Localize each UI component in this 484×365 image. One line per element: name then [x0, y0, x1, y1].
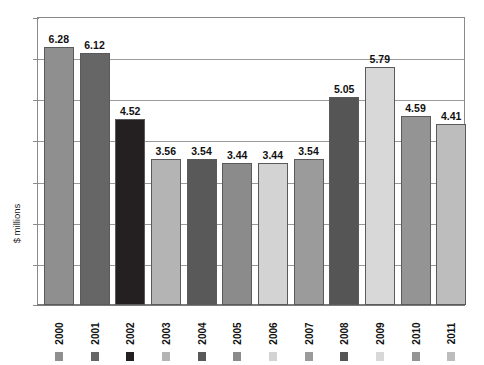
bar-slot: 6.12 [80, 17, 110, 305]
bar-value-label: 5.79 [370, 53, 390, 65]
legend-swatch-2009 [376, 352, 384, 361]
bar[interactable] [258, 163, 288, 305]
bar-chart: $ millions 6.286.124.523.563.543.443.443… [0, 0, 484, 365]
bar-value-label: 4.59 [405, 102, 425, 114]
bar-value-label: 3.56 [156, 145, 176, 157]
category-slot: 2007 [294, 306, 324, 365]
bar[interactable] [365, 67, 395, 305]
bar-value-label: 3.54 [191, 145, 211, 157]
legend-swatch-2008 [340, 352, 348, 361]
x-axis-label-2002: 2002 [125, 322, 136, 344]
bar-value-label: 5.05 [334, 83, 354, 95]
bar[interactable] [294, 159, 324, 305]
category-slot: 2002 [115, 306, 145, 365]
bar-slot: 5.05 [329, 17, 359, 305]
legend-swatch-2002 [126, 352, 134, 361]
bar-slot: 4.59 [401, 17, 431, 305]
x-axis-label-2009: 2009 [374, 322, 385, 344]
bar-value-label: 3.54 [298, 145, 318, 157]
category-slot: 2008 [329, 306, 359, 365]
bar-value-label: 6.12 [84, 39, 104, 51]
bar-slot: 3.44 [258, 17, 288, 305]
bar[interactable] [436, 124, 466, 305]
legend-swatch-2000 [55, 352, 63, 361]
bar-slot: 3.54 [187, 17, 217, 305]
bar-slot: 3.44 [222, 17, 252, 305]
bar[interactable] [151, 159, 181, 305]
legend-swatch-2010 [412, 352, 420, 361]
x-axis-label-2010: 2010 [410, 322, 421, 344]
x-axis-label-2001: 2001 [89, 322, 100, 344]
category-slot: 2010 [401, 306, 431, 365]
bar-value-label: 3.44 [263, 149, 283, 161]
legend-swatch-2004 [198, 352, 206, 361]
legend-swatch-2007 [305, 352, 313, 361]
category-axis-layer: 2000200120022003200420052006200720082009… [37, 306, 465, 365]
bar-value-label: 3.44 [227, 149, 247, 161]
bar-slot: 5.79 [365, 17, 395, 305]
bars-layer: 6.286.124.523.563.543.443.443.545.055.79… [37, 17, 465, 305]
x-axis-label-2008: 2008 [339, 322, 350, 344]
bar-slot: 3.56 [151, 17, 181, 305]
bar[interactable] [80, 53, 110, 305]
bar-slot: 3.54 [294, 17, 324, 305]
bar[interactable] [44, 47, 74, 305]
chart-title-fragment [284, 0, 324, 5]
bar-slot: 4.41 [436, 17, 466, 305]
x-axis-label-2003: 2003 [160, 322, 171, 344]
legend-swatch-2001 [91, 352, 99, 361]
x-axis-label-2005: 2005 [232, 322, 243, 344]
category-slot: 2000 [44, 306, 74, 365]
y-axis-title: $ millions [11, 184, 22, 264]
bar[interactable] [115, 119, 145, 305]
bar-value-label: 6.28 [49, 33, 69, 45]
bar[interactable] [187, 159, 217, 305]
legend-swatch-2005 [233, 352, 241, 361]
legend-swatch-2011 [447, 352, 455, 361]
x-axis-label-2000: 2000 [53, 322, 64, 344]
x-axis-label-2007: 2007 [303, 322, 314, 344]
category-slot: 2001 [80, 306, 110, 365]
category-slot: 2005 [222, 306, 252, 365]
bar-slot: 6.28 [44, 17, 74, 305]
legend-swatch-2006 [269, 352, 277, 361]
bar[interactable] [329, 97, 359, 305]
category-slot: 2004 [187, 306, 217, 365]
category-slot: 2006 [258, 306, 288, 365]
bar[interactable] [401, 116, 431, 305]
x-axis-label-2004: 2004 [196, 322, 207, 344]
category-slot: 2009 [365, 306, 395, 365]
x-axis-label-2006: 2006 [267, 322, 278, 344]
category-slot: 2003 [151, 306, 181, 365]
legend-swatch-2003 [162, 352, 170, 361]
bar-value-label: 4.52 [120, 105, 140, 117]
x-axis-label-2011: 2011 [446, 323, 457, 345]
category-slot: 2011 [436, 306, 466, 365]
bar[interactable] [222, 163, 252, 305]
bar-value-label: 4.41 [441, 110, 461, 122]
bar-slot: 4.52 [115, 17, 145, 305]
